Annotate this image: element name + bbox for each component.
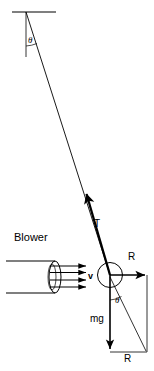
diagram-canvas [0, 0, 154, 371]
theta-label-top: θ [28, 36, 32, 45]
weight-label: mg [90, 314, 104, 324]
physics-diagram-figure: θ θ T R R mg v Blower [0, 0, 154, 371]
resultant-diagonal [110, 277, 146, 351]
tension-label: T [94, 219, 100, 229]
reaction-label-top: R [128, 252, 135, 262]
blower-label: Blower [14, 232, 48, 243]
velocity-label: v [88, 272, 93, 281]
reaction-label-bottom: R [124, 354, 131, 364]
theta-label-bottom: θ [115, 296, 119, 305]
